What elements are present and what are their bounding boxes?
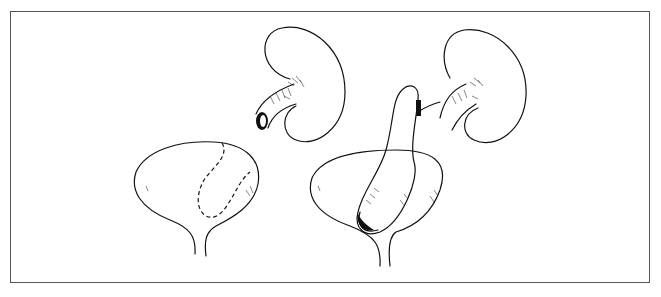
right-bladder <box>310 86 442 266</box>
illustration <box>0 0 661 297</box>
left-kidney <box>256 27 345 142</box>
left-bladder <box>134 142 258 256</box>
right-kidney <box>440 30 526 143</box>
